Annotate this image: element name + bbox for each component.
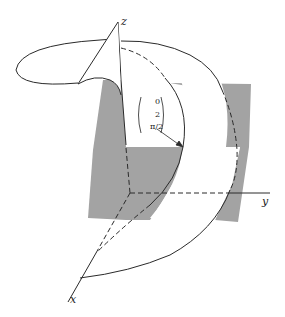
- y-axis-label: y: [262, 196, 268, 207]
- vector-component-2: 2: [155, 111, 160, 119]
- surface-diagram: [0, 0, 285, 317]
- vector-component-3: π/2: [150, 123, 163, 131]
- x-axis-label: x: [70, 294, 76, 305]
- z-axis-label: z: [121, 16, 127, 27]
- vector-component-1: 0: [155, 98, 160, 106]
- point-vector-label: 0 2 π/2: [136, 95, 166, 135]
